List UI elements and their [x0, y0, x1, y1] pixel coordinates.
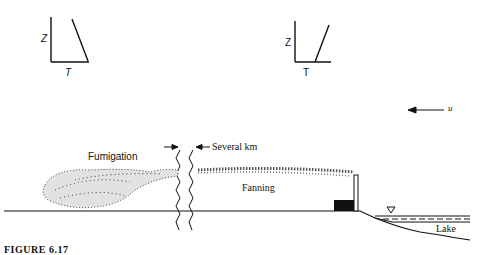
figure-caption: FIGURE 6.17: [4, 244, 68, 255]
fumigation-plume: [43, 169, 178, 207]
water-level-icon: [387, 207, 395, 213]
break-symbol: [176, 150, 193, 230]
wind-arrow-icon: [408, 107, 444, 113]
fanning-plume: [198, 168, 354, 176]
fanning-label: Fanning: [242, 183, 275, 193]
t-axis-label-right: T: [303, 68, 309, 78]
distance-label: Several km: [212, 142, 257, 152]
lake-label: Lake: [436, 224, 456, 234]
temperature-profile-left: [51, 17, 89, 62]
fumigation-label: Fumigation: [88, 152, 137, 162]
t-axis-label-left: T: [65, 68, 71, 78]
distance-arrows-icon: [164, 145, 210, 150]
wind-label: u: [448, 104, 453, 113]
z-axis-label-right: Z: [285, 38, 291, 48]
factory-building: [334, 200, 354, 211]
temperature-profile-right: [295, 21, 331, 62]
stack: [354, 175, 358, 211]
z-axis-label-left: Z: [41, 34, 47, 44]
